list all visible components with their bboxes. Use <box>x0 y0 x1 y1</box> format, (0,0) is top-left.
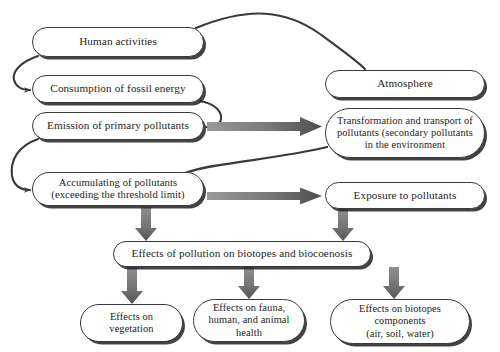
edge-exposure-to-effects <box>332 209 354 241</box>
node-emission-of-primary-pollutants[interactable]: Emission of primary pollutants <box>32 112 204 140</box>
node-label: Effects on vegetation <box>101 311 161 336</box>
edge-effects-to-biotopes <box>383 267 405 299</box>
node-transformation-and-transport[interactable]: Transformation and transport of pollutan… <box>325 108 485 158</box>
edge-transform-to-accumulating <box>180 147 327 176</box>
edge-effects-to-vegetation <box>121 267 143 304</box>
flowchart-diagram: Human activities Atmosphere Consumption … <box>0 0 500 352</box>
node-atmosphere[interactable]: Atmosphere <box>325 70 485 98</box>
node-label: Transformation and transport of pollutan… <box>329 115 481 152</box>
node-consumption-of-fossil-energy[interactable]: Consumption of fossil energy <box>32 75 204 103</box>
edge-emission-to-transform <box>207 117 322 136</box>
node-label: Atmosphere <box>369 77 441 90</box>
node-label: Effects on biotopes components (air, soi… <box>351 303 449 340</box>
node-effects-on-vegetation[interactable]: Effects on vegetation <box>80 304 183 342</box>
node-label: Human activities <box>71 35 165 48</box>
node-accumulating-of-pollutants[interactable]: Accumulating of pollutants (exceeding th… <box>32 172 204 206</box>
edge-human-to-atmosphere <box>196 14 365 69</box>
edge-accumulating-to-exposure <box>207 188 322 205</box>
node-label: Effects of pollution on biotopes and bio… <box>124 247 361 260</box>
node-human-activities[interactable]: Human activities <box>32 27 204 57</box>
node-effects-of-pollution[interactable]: Effects of pollution on biotopes and bio… <box>113 241 371 267</box>
edge-effects-to-fauna <box>238 267 260 299</box>
edge-accumulating-to-effects <box>135 207 157 241</box>
node-effects-on-fauna[interactable]: Effects on fauna, human, and animal heal… <box>193 299 305 342</box>
node-label: Effects on fauna, human, and animal heal… <box>200 302 297 339</box>
node-label: Accumulating of pollutants (exceeding th… <box>43 177 192 202</box>
node-label: Emission of primary pollutants <box>39 119 197 132</box>
node-label: Exposure to pollutants <box>346 189 465 202</box>
node-label: Consumption of fossil energy <box>42 82 193 95</box>
node-effects-on-biotopes-components[interactable]: Effects on biotopes components (air, soi… <box>330 299 470 344</box>
node-exposure-to-pollutants[interactable]: Exposure to pollutants <box>325 182 485 209</box>
